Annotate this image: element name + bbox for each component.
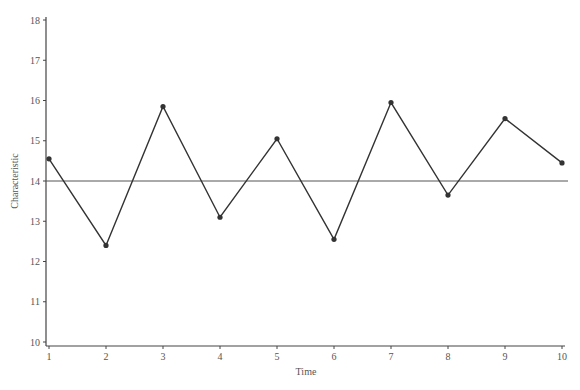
- x-tick-label: 3: [161, 351, 166, 362]
- y-tick-label: 18: [30, 15, 40, 26]
- data-point: [445, 192, 450, 197]
- y-tick-label: 15: [30, 135, 40, 146]
- y-tick-label: 10: [30, 337, 40, 348]
- data-point: [502, 116, 507, 121]
- data-series: [46, 100, 564, 248]
- data-point: [160, 104, 165, 109]
- axes: 10111213141516171812345678910: [30, 15, 567, 363]
- x-tick-label: 4: [218, 351, 223, 362]
- data-point: [388, 100, 393, 105]
- data-point: [217, 215, 222, 220]
- data-point: [46, 156, 51, 161]
- y-tick-label: 16: [30, 95, 40, 106]
- data-point: [103, 243, 108, 248]
- line-chart: 10111213141516171812345678910 Time Chara…: [0, 0, 580, 390]
- y-tick-label: 11: [30, 296, 40, 307]
- x-axis-label: Time: [296, 366, 317, 377]
- y-tick-label: 12: [30, 256, 40, 267]
- x-tick-label: 5: [275, 351, 280, 362]
- x-tick-label: 6: [332, 351, 337, 362]
- x-tick-label: 9: [503, 351, 508, 362]
- y-tick-label: 17: [30, 55, 40, 66]
- data-point: [274, 136, 279, 141]
- y-axis-label: Characteristic: [9, 153, 20, 209]
- y-tick-label: 13: [30, 216, 40, 227]
- x-tick-label: 8: [446, 351, 451, 362]
- data-point: [331, 237, 336, 242]
- data-point: [559, 160, 564, 165]
- x-tick-label: 2: [104, 351, 109, 362]
- x-tick-label: 1: [47, 351, 52, 362]
- x-tick-label: 10: [557, 351, 567, 362]
- x-tick-label: 7: [389, 351, 394, 362]
- y-tick-label: 14: [30, 176, 40, 187]
- series-line: [49, 103, 562, 246]
